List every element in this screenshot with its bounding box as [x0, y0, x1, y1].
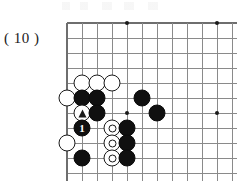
board-grid-line-vertical — [172, 23, 173, 181]
circle-marker-icon — [108, 154, 116, 162]
board-grid-line-horizontal — [67, 143, 237, 144]
circle-marker-icon — [108, 139, 116, 147]
go-board[interactable]: 1 — [0, 0, 237, 181]
board-grid-line-horizontal — [67, 53, 237, 54]
board-grid-line-horizontal — [67, 22, 237, 24]
go-stone-black[interactable] — [149, 105, 166, 122]
board-grid-line-horizontal — [67, 68, 237, 69]
board-grid-line-horizontal — [67, 173, 237, 174]
go-stone-black[interactable] — [134, 90, 151, 107]
go-stone-white[interactable] — [104, 75, 121, 92]
board-grid-line-vertical — [202, 23, 203, 181]
board-grid-line-vertical — [157, 23, 158, 181]
stone-move-number: 1 — [79, 123, 85, 134]
go-stone-black[interactable]: 1 — [74, 120, 91, 137]
go-stone-black[interactable] — [89, 105, 106, 122]
board-star-point — [215, 21, 219, 25]
go-stone-black[interactable] — [119, 150, 136, 167]
board-star-point — [125, 111, 129, 115]
triangle-marker-icon — [78, 109, 86, 117]
board-grid-line-vertical — [187, 23, 188, 181]
board-grid-line-vertical — [217, 23, 218, 181]
go-problem-figure: ( 10 ) 1 — [0, 0, 237, 181]
board-star-point — [215, 111, 219, 115]
board-grid-line-horizontal — [67, 128, 237, 129]
board-grid-line-horizontal — [67, 38, 237, 39]
board-star-point — [125, 21, 129, 25]
circle-marker-icon — [108, 124, 116, 132]
board-grid-line-vertical — [232, 23, 233, 181]
board-grid-line-horizontal — [67, 158, 237, 159]
go-stone-white[interactable] — [59, 135, 76, 152]
go-stone-black[interactable] — [74, 150, 91, 167]
